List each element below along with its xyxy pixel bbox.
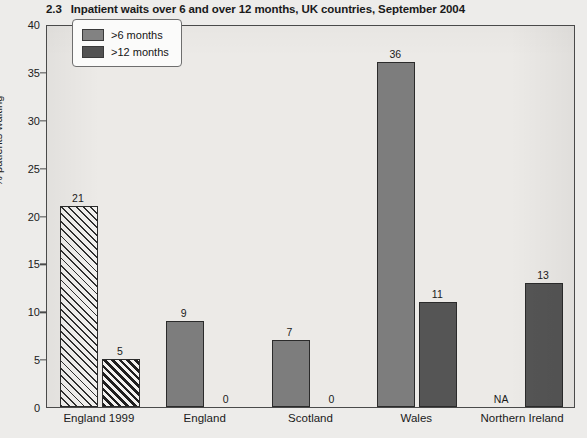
legend-swatch-12-months-icon [82, 46, 104, 58]
x-category-label: Wales [401, 412, 433, 424]
y-tick-label: 10 [14, 306, 40, 318]
legend-item-6-months: >6 months [82, 26, 181, 43]
bar-value-label: 13 [537, 269, 549, 281]
y-tick-label: 15 [14, 258, 40, 270]
y-tick-label: 5 [14, 354, 40, 366]
bar [166, 321, 204, 407]
figure-title-text: Inpatient waits over 6 and over 12 month… [71, 3, 465, 15]
chart-legend: >6 months >12 months [72, 19, 182, 67]
y-tick-label: 20 [14, 211, 40, 223]
bar-value-label: NA [494, 393, 509, 405]
y-tick-label: 0 [14, 402, 40, 414]
plot-area [46, 25, 575, 408]
figure-number: 2.3 [46, 3, 62, 15]
y-tick-label: 30 [14, 115, 40, 127]
y-tick-mark [40, 72, 46, 73]
legend-swatch-6-months-icon [82, 29, 104, 41]
y-tick-label: 35 [14, 67, 40, 79]
bar [419, 302, 457, 407]
y-tick-mark [40, 264, 46, 265]
paper-vignette [47, 26, 574, 407]
y-tick-mark [40, 312, 46, 313]
bar-value-label: 11 [432, 288, 443, 300]
bar [60, 206, 98, 407]
bar [272, 340, 310, 407]
bar-value-label: 5 [117, 345, 123, 357]
bar [102, 359, 140, 407]
legend-label-12-months: >12 months [111, 46, 169, 58]
y-tick-mark [40, 168, 46, 169]
y-tick-mark [40, 120, 46, 121]
x-category-label: Northern Ireland [481, 412, 564, 424]
y-tick-mark [40, 359, 46, 360]
figure-panel: 2.3 Inpatient waits over 6 and over 12 m… [0, 0, 587, 438]
x-category-label: England [184, 412, 226, 424]
y-tick-label: 25 [14, 163, 40, 175]
bar-value-label: 21 [72, 192, 84, 204]
legend-label-6-months: >6 months [111, 29, 163, 41]
bar-value-label: 9 [181, 307, 187, 319]
x-category-label: England 1999 [63, 412, 134, 424]
y-tick-label: 40 [14, 19, 40, 31]
x-category-label: Scotland [288, 412, 333, 424]
bar-value-label: 0 [329, 393, 335, 405]
bar-value-label: 7 [287, 326, 293, 338]
legend-item-12-months: >12 months [82, 43, 181, 60]
bar [525, 283, 563, 407]
bar [377, 62, 415, 407]
figure-title: 2.3 Inpatient waits over 6 and over 12 m… [46, 3, 566, 19]
y-axis-title: % patients waiting [0, 96, 4, 186]
y-tick-mark [40, 216, 46, 217]
bar-value-label: 36 [389, 48, 401, 60]
bar-value-label: 0 [223, 393, 229, 405]
